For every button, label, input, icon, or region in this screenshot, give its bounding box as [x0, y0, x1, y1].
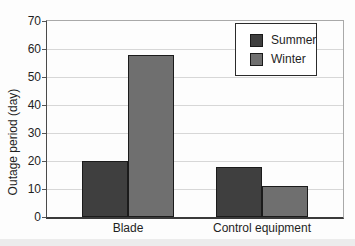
y-tick-label-30: 30	[15, 126, 41, 140]
y-tick-label-10: 10	[15, 182, 41, 196]
y-tick-label-60: 60	[15, 42, 41, 56]
winter-swatch	[250, 53, 263, 66]
bar-chart-figure: Outage period (day) Blade Control equipm…	[0, 0, 355, 246]
gridline-40	[47, 105, 343, 106]
y-tick-mark-10	[42, 189, 46, 190]
bar-blade-winter	[128, 55, 174, 217]
y-tick-label-20: 20	[15, 154, 41, 168]
y-tick-label-40: 40	[15, 98, 41, 112]
y-tick-label-0: 0	[15, 210, 41, 224]
bar-control-equipment-summer	[216, 167, 262, 217]
gridline-30	[47, 133, 343, 134]
legend-item-summer: Summer	[250, 32, 316, 48]
y-tick-mark-0	[42, 217, 46, 218]
gridline-50	[47, 77, 343, 78]
legend-label-summer: Summer	[271, 34, 316, 47]
y-tick-label-50: 50	[15, 70, 41, 84]
bar-blade-summer	[82, 161, 128, 217]
legend: Summer Winter	[235, 23, 317, 76]
y-tick-label-70: 70	[15, 14, 41, 28]
y-tick-mark-40	[42, 105, 46, 106]
scan-artifact-band	[0, 239, 355, 246]
category-label-blade: Blade	[113, 221, 144, 235]
y-tick-mark-30	[42, 133, 46, 134]
y-tick-mark-70	[42, 21, 46, 22]
category-label-control-equipment: Control equipment	[213, 221, 311, 235]
legend-item-winter: Winter	[250, 51, 316, 67]
summer-swatch	[250, 34, 263, 47]
y-tick-mark-60	[42, 49, 46, 50]
y-tick-mark-50	[42, 77, 46, 78]
bar-control-equipment-winter	[262, 186, 308, 217]
y-tick-mark-20	[42, 161, 46, 162]
legend-label-winter: Winter	[271, 53, 306, 66]
